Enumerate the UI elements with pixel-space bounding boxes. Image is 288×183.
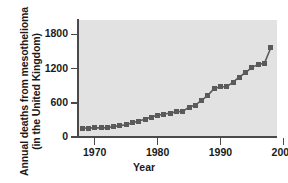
x-axis-label: Year bbox=[0, 161, 288, 173]
y-axis-tick-label: 600 bbox=[28, 96, 68, 108]
y-axis-tick-label: 0 bbox=[28, 130, 68, 142]
x-axis-tick bbox=[157, 138, 159, 145]
data-point bbox=[161, 112, 166, 117]
y-axis-tick bbox=[71, 68, 78, 70]
data-point bbox=[243, 70, 248, 75]
data-point bbox=[231, 80, 236, 85]
x-axis-tick-label: 2000 bbox=[263, 146, 288, 158]
y-axis-tick bbox=[71, 102, 78, 104]
data-point bbox=[249, 65, 254, 70]
data-point bbox=[99, 125, 104, 130]
x-axis-tick-label: 1970 bbox=[75, 146, 115, 158]
y-axis-tick bbox=[71, 34, 78, 36]
data-point bbox=[218, 84, 223, 89]
data-point bbox=[180, 109, 185, 114]
data-point bbox=[155, 113, 160, 118]
data-point bbox=[149, 115, 154, 120]
plot-area-background bbox=[79, 20, 277, 137]
x-axis-line bbox=[77, 136, 277, 138]
data-point bbox=[86, 126, 91, 131]
data-point bbox=[124, 122, 129, 127]
data-point bbox=[212, 86, 217, 91]
data-point bbox=[80, 126, 85, 131]
data-point bbox=[130, 120, 135, 125]
data-point bbox=[136, 119, 141, 124]
data-point bbox=[193, 103, 198, 108]
x-axis-tick bbox=[283, 138, 285, 145]
data-point bbox=[199, 98, 204, 103]
data-point bbox=[143, 117, 148, 122]
y-axis-tick-label: 1800 bbox=[28, 27, 68, 39]
data-point bbox=[111, 124, 116, 129]
chart-figure: Annual deaths from mesothelioma (in the … bbox=[0, 0, 288, 183]
data-point bbox=[92, 125, 97, 130]
data-point bbox=[187, 105, 192, 110]
data-point bbox=[168, 111, 173, 116]
data-point bbox=[256, 62, 261, 67]
data-point bbox=[205, 93, 210, 98]
y-axis-tick-label: 1200 bbox=[28, 62, 68, 74]
x-axis-tick-label: 1980 bbox=[138, 146, 178, 158]
data-point bbox=[262, 61, 267, 66]
data-point bbox=[237, 75, 242, 80]
data-point bbox=[105, 125, 110, 130]
y-axis-tick bbox=[71, 136, 78, 138]
data-point bbox=[117, 123, 122, 128]
x-axis-tick bbox=[220, 138, 222, 145]
y-axis-line bbox=[77, 19, 79, 138]
data-point bbox=[224, 84, 229, 89]
data-point bbox=[268, 45, 273, 50]
x-axis-tick-label: 1990 bbox=[200, 146, 240, 158]
x-axis-tick bbox=[94, 138, 96, 145]
data-point bbox=[174, 109, 179, 114]
